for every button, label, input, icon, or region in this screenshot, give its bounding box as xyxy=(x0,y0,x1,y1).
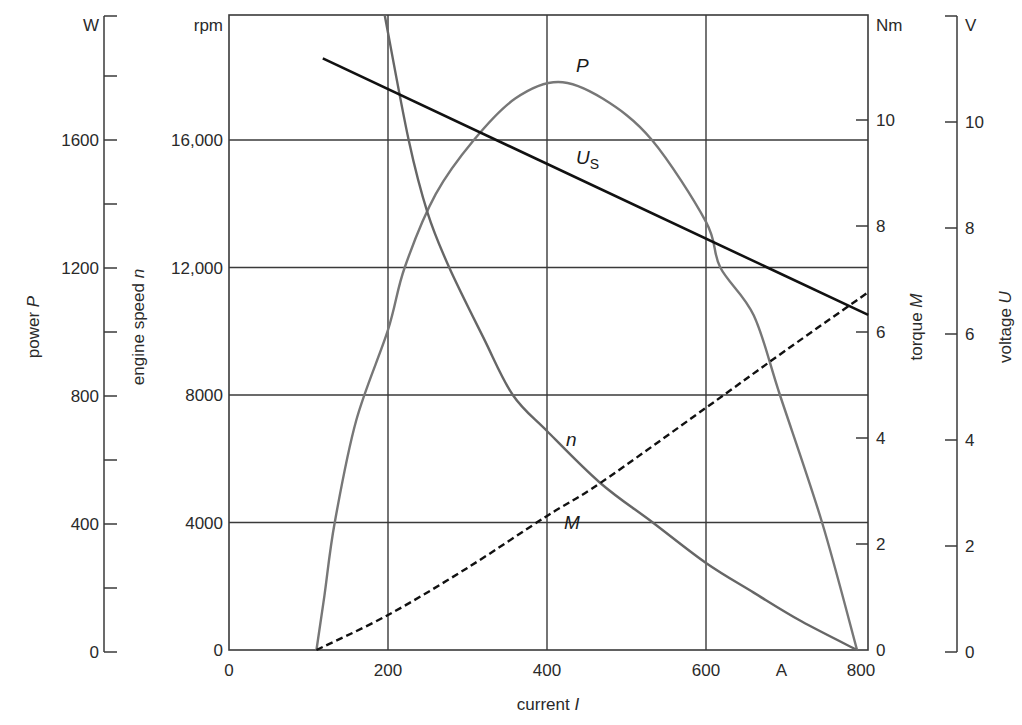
current-unit-label: A xyxy=(776,661,788,680)
voltage-tick-label: 10 xyxy=(965,113,984,132)
plot-frame xyxy=(229,15,868,650)
current-tick-label: 200 xyxy=(374,661,402,680)
current-tick-label: 400 xyxy=(533,661,561,680)
current-axis-title: current I xyxy=(517,695,580,714)
power-tick-label: 400 xyxy=(71,515,99,534)
torque-tick-label: 10 xyxy=(876,111,895,130)
speed-tick-label: 0 xyxy=(214,641,223,660)
torque-tick-label: 0 xyxy=(876,641,885,660)
power-axis-title: power P xyxy=(24,295,43,358)
power-unit-label: W xyxy=(83,16,99,35)
current-tick-label: 800 xyxy=(847,661,875,680)
speed-tick-label: 12,000 xyxy=(171,259,223,278)
voltage-tick-label: 8 xyxy=(965,219,974,238)
torque-tick-label: 6 xyxy=(876,323,885,342)
power-tick-label: 800 xyxy=(71,387,99,406)
axes: 040080012001600Wpower P04000800012,00016… xyxy=(24,16,1015,714)
series-label-p: P xyxy=(576,55,589,76)
series-m-curve xyxy=(316,292,868,650)
torque-tick-label: 2 xyxy=(876,535,885,554)
series-u-s-curve xyxy=(323,58,868,315)
torque-tick-label: 4 xyxy=(876,429,885,448)
current-tick-label: 600 xyxy=(692,661,720,680)
speed-tick-label: 16,000 xyxy=(171,131,223,150)
series-label-u-s: US xyxy=(576,147,599,172)
motor-characteristics-chart: 040080012001600Wpower P04000800012,00016… xyxy=(0,0,1022,725)
voltage-tick-label: 6 xyxy=(965,325,974,344)
current-tick-label: 0 xyxy=(224,661,233,680)
voltage-axis-title: voltage U xyxy=(996,290,1015,363)
power-tick-label: 1200 xyxy=(61,259,99,278)
voltage-tick-label: 0 xyxy=(965,643,974,662)
data-series xyxy=(316,16,868,650)
grid-lines xyxy=(229,15,868,650)
voltage-unit-label: V xyxy=(965,16,977,35)
speed-axis-title: engine speed n xyxy=(129,269,148,385)
speed-unit-label: rpm xyxy=(194,16,223,35)
power-tick-label: 0 xyxy=(90,643,99,662)
voltage-tick-label: 2 xyxy=(965,537,974,556)
speed-tick-label: 8000 xyxy=(185,386,223,405)
series-label-n: n xyxy=(566,429,577,450)
torque-axis-title: torque M xyxy=(907,293,926,361)
torque-tick-label: 8 xyxy=(876,217,885,236)
curve-labels: PnMUS xyxy=(564,55,599,533)
speed-tick-label: 4000 xyxy=(185,514,223,533)
series-label-m: M xyxy=(564,512,580,533)
torque-unit-label: Nm xyxy=(876,16,902,35)
voltage-tick-label: 4 xyxy=(965,431,974,450)
power-tick-label: 1600 xyxy=(61,131,99,150)
